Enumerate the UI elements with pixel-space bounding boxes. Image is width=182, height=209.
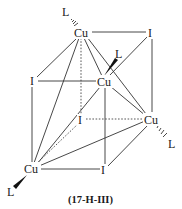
- diagram-caption: (17-H-III): [68, 194, 113, 206]
- atom-i-bottom: I: [101, 163, 105, 177]
- bond-cutop-cucenter: [84, 38, 102, 76]
- ligand-l-top: L: [62, 5, 69, 19]
- atom-labels: Cu I I Cu I Cu Cu I: [23, 26, 161, 177]
- hashed-bond-top: [71, 19, 78, 26]
- atom-i-top-right: I: [148, 26, 152, 40]
- atom-i-back: I: [78, 113, 82, 127]
- atom-cu-right: Cu: [144, 113, 158, 127]
- ligand-l-right: L: [168, 137, 175, 151]
- atom-cu-bottom-left: Cu: [24, 162, 38, 176]
- hashed-bond-right: [157, 126, 167, 137]
- cu-cu-bonds: [34, 37, 146, 166]
- wedge-bond-bottom: [13, 175, 27, 189]
- atom-i-left: I: [30, 74, 34, 88]
- cu4i4l4-cluster-diagram: Cu I I Cu I Cu Cu I L L L L (17-H-III): [0, 0, 182, 209]
- edge-cutop-ileft: [37, 38, 77, 77]
- atom-cu-center: Cu: [97, 75, 111, 89]
- bond-cucenter-cubottomleft: [37, 87, 100, 164]
- ligand-l-center: L: [115, 47, 122, 61]
- ligand-l-bottom: L: [7, 185, 14, 199]
- atom-cu-top: Cu: [74, 26, 88, 40]
- edge-ibottom-curight: [108, 125, 148, 166]
- bond-curight-cubottomleft: [39, 121, 145, 166]
